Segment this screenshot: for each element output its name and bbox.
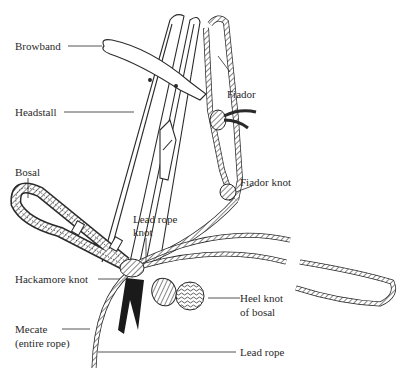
label-fiador: Fiador [227,88,256,100]
hackamore-illustration [0,0,412,384]
label-lead-rope-knot-line2: knot [133,226,153,238]
bosal [16,188,130,268]
label-lead-rope: Lead rope [240,346,284,358]
label-mecate-line1: Mecate [15,323,47,335]
hackamore-knot [118,259,180,334]
label-headstall: Headstall [15,106,57,118]
label-fiador-knot: Fiador knot [240,176,291,188]
label-mecate-line2: (entire rope) [15,337,70,349]
heel-knot [176,282,204,310]
label-lead-rope-knot-line1: Lead rope [133,213,177,225]
label-hackamore-knot: Hackamore knot [15,273,88,285]
hackamore-diagram: Browband Headstall Fiador Fiador knot Bo… [0,0,412,384]
fiador [206,18,256,200]
label-browband: Browband [15,40,61,52]
label-bosal: Bosal [15,166,40,178]
label-heel-knot-line1: Heel knot [240,292,283,304]
label-heel-knot-line2: of bosal [240,306,275,318]
